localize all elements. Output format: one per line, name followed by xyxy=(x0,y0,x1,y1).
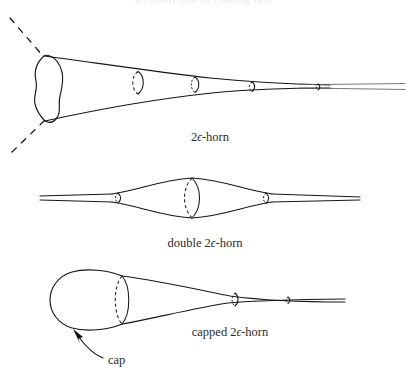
horn-upper-outline xyxy=(44,56,330,85)
double-right-tube-lower xyxy=(272,200,360,202)
double-cross-section-centre-dashed xyxy=(185,178,193,218)
horn-tube-upper-fade xyxy=(300,84,405,85)
figure-root: a cut-off line of running text xyxy=(0,0,407,382)
capped-cross-section-mid-solid xyxy=(235,293,238,306)
double-right-tube-upper xyxy=(272,194,360,197)
caption-horn: 2ϵ-horn xyxy=(191,130,230,144)
double-left-tube-lower xyxy=(40,200,112,202)
figure-canvas: 2ϵ-horn xyxy=(0,0,407,382)
horn-cross-section-2-solid xyxy=(195,77,199,93)
horn-tube-lower-fade xyxy=(300,88,405,90)
caption-horn-suffix: -horn xyxy=(202,130,230,144)
cap-cross-section-dashed xyxy=(115,276,122,324)
double-cross-section-left-solid xyxy=(118,193,121,203)
double-cross-section-centre-solid xyxy=(192,178,200,218)
panel-capped-horn: cap capped 2ϵ-horn xyxy=(50,270,345,367)
horn-lower-outline xyxy=(45,88,330,121)
annotation-cap-label: cap xyxy=(108,353,125,367)
boundary-dashed-lower-icon xyxy=(12,121,44,152)
cropped-header-text: a cut-off line of running text xyxy=(0,0,407,5)
caption-double-suffix: -horn xyxy=(215,236,243,250)
double-bulge-lower-outline xyxy=(112,202,272,218)
double-bulge-upper-outline xyxy=(112,178,272,194)
double-left-tube-upper xyxy=(40,194,112,196)
capped-body-upper-taper xyxy=(122,276,345,302)
horn-cross-section-2-dashed xyxy=(191,77,195,93)
panel-double-horn: double 2ϵ-horn xyxy=(40,178,360,250)
horn-cross-section-1-solid xyxy=(138,72,143,95)
capped-upper-outline xyxy=(50,270,122,330)
capped-body-lower-taper xyxy=(122,299,345,324)
cap-cross-section-solid xyxy=(122,276,129,324)
caption-double-horn: double 2ϵ-horn xyxy=(167,236,243,250)
panel-horn: 2ϵ-horn xyxy=(10,18,405,152)
caption-capped-suffix: -horn xyxy=(241,325,269,339)
horn-cross-section-1-dashed xyxy=(133,72,138,95)
capped-cross-section-mid-dashed xyxy=(232,293,235,306)
boundary-dashed-upper-icon xyxy=(10,18,43,56)
caption-capped-prefix: capped 2 xyxy=(192,325,237,339)
double-cross-section-right-dashed xyxy=(263,193,266,204)
caption-capped-horn: capped 2ϵ-horn xyxy=(192,325,269,339)
caption-double-prefix: double 2 xyxy=(167,236,210,250)
double-cross-section-right-solid xyxy=(266,193,269,204)
horn-wavy-boundary xyxy=(35,55,63,122)
cap-leader-line xyxy=(78,336,103,358)
double-cross-section-left-dashed xyxy=(115,193,118,203)
